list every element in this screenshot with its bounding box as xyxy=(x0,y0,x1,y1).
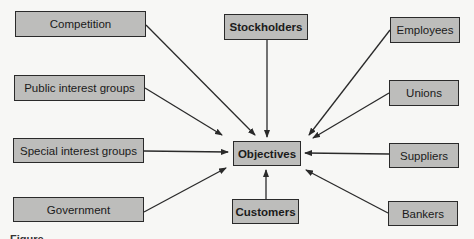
arrow-public-interest xyxy=(145,88,222,135)
node-label: Competition xyxy=(50,18,111,30)
arrow-suppliers xyxy=(305,153,389,154)
arrow-special-interest xyxy=(144,151,228,152)
figure-caption: Figure xyxy=(10,233,44,239)
arrow-bankers xyxy=(306,170,388,213)
node-employees: Employees xyxy=(390,17,460,43)
node-customers: Customers xyxy=(232,199,299,224)
center-label: Objectives xyxy=(238,148,296,160)
node-label: Stockholders xyxy=(230,21,303,33)
node-objectives: Objectives xyxy=(233,141,301,166)
node-label: Bankers xyxy=(402,208,444,220)
node-label: Employees xyxy=(397,24,454,36)
node-label: Suppliers xyxy=(400,150,448,162)
node-bankers: Bankers xyxy=(388,201,458,226)
node-special-interest-groups: Special interest groups xyxy=(13,138,144,163)
node-label: Special interest groups xyxy=(20,145,137,157)
node-government: Government xyxy=(13,197,144,222)
node-label: Public interest groups xyxy=(24,82,135,94)
node-competition: Competition xyxy=(15,11,146,37)
arrow-competition xyxy=(146,25,255,135)
node-unions: Unions xyxy=(389,80,459,106)
arrow-government xyxy=(144,168,226,212)
node-public-interest-groups: Public interest groups xyxy=(14,75,145,101)
node-label: Customers xyxy=(235,206,295,218)
node-label: Unions xyxy=(406,87,442,99)
node-stockholders: Stockholders xyxy=(224,14,308,40)
objectives-influence-diagram: Competition Stockholders Employees Publi… xyxy=(0,0,474,239)
node-label: Government xyxy=(47,204,110,216)
arrow-employees xyxy=(309,30,390,135)
node-suppliers: Suppliers xyxy=(389,143,459,168)
